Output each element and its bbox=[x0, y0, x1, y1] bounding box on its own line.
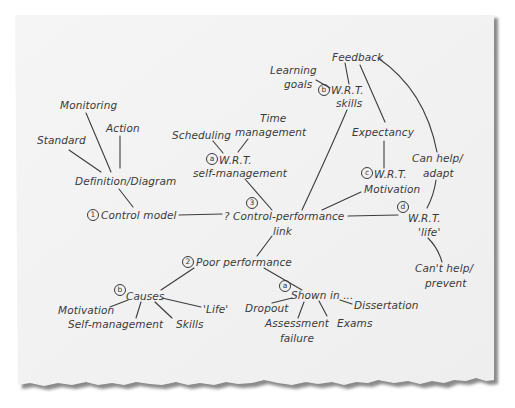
edge-feedback-expectancy bbox=[360, 65, 385, 122]
node-cant-help-line1: Can't help/ bbox=[415, 263, 473, 274]
node-wrt-self-line1: W.R.T. bbox=[219, 155, 252, 166]
node-shown-in: Shown in ... bbox=[291, 290, 353, 301]
node-central-line2: link bbox=[273, 226, 292, 237]
edge-central-wrt-life bbox=[348, 215, 398, 216]
edge-can-help-wrt-life bbox=[427, 180, 436, 208]
node-wrt-motivation-line1: W.R.T. bbox=[374, 169, 407, 180]
node-dissertation: Dissertation bbox=[354, 300, 419, 311]
node-assessment-line2: failure bbox=[280, 333, 314, 344]
node-wrt-skills-line1: W.R.T. bbox=[331, 85, 364, 96]
edge-scheduling-wrt bbox=[213, 141, 223, 153]
edge-poor-performance-causes bbox=[161, 268, 194, 290]
edge-shown-in-assessment bbox=[298, 302, 304, 318]
edge-skills-central bbox=[302, 110, 347, 210]
marker-3: 3 bbox=[246, 197, 258, 209]
node-dropout: Dropout bbox=[245, 303, 288, 314]
edge-standard-definition bbox=[69, 150, 101, 172]
edge-motivation-central bbox=[322, 192, 361, 210]
node-exams: Exams bbox=[337, 318, 372, 329]
node-assessment-line1: Assessment bbox=[265, 318, 329, 329]
node-cause-motivation: Motivation bbox=[58, 305, 114, 316]
edge-definition-control-model bbox=[119, 189, 133, 207]
node-goals: goals bbox=[284, 79, 312, 90]
edge-central-poor-performance bbox=[257, 236, 272, 256]
edge-shown-in-exams bbox=[319, 301, 327, 316]
node-wrt-self-line2: self-management bbox=[193, 168, 287, 179]
node-learning: Learning bbox=[270, 65, 317, 76]
diagram-canvas: Monitoring Action Standard Definition/Di… bbox=[0, 0, 515, 408]
node-cause-skills: Skills bbox=[176, 319, 204, 330]
node-expectancy: Expectancy bbox=[352, 127, 414, 138]
marker-a-self: a bbox=[206, 153, 218, 165]
edge-causes-life bbox=[162, 298, 201, 307]
marker-b-skills: b bbox=[318, 84, 330, 96]
marker-2: 2 bbox=[182, 256, 194, 268]
node-monitoring: Monitoring bbox=[60, 100, 117, 111]
node-can-help-line2: adapt bbox=[423, 168, 454, 179]
node-cause-self-management: Self-management bbox=[68, 319, 163, 330]
edge-life-cant-help bbox=[428, 238, 442, 262]
node-causes: Causes bbox=[126, 291, 164, 302]
marker-c: c bbox=[361, 167, 373, 179]
node-central-line1: ? Control-performance bbox=[224, 211, 344, 222]
marker-a-shown: a bbox=[279, 280, 291, 292]
node-action: Action bbox=[106, 123, 140, 134]
node-wrt-motivation-line2: Motivation bbox=[364, 184, 420, 195]
node-poor-performance: Poor performance bbox=[196, 257, 292, 268]
edge-feedback-wrt-skills bbox=[345, 63, 349, 84]
marker-1: 1 bbox=[87, 209, 99, 221]
node-standard: Standard bbox=[37, 135, 86, 146]
node-definition-diagram: Definition/Diagram bbox=[75, 176, 176, 187]
marker-b-causes: b bbox=[114, 284, 126, 296]
node-management: management bbox=[235, 127, 306, 138]
node-wrt-life-line1: W.R.T. bbox=[408, 213, 441, 224]
node-can-help-line1: Can help/ bbox=[412, 153, 463, 164]
node-wrt-life-line2: 'life' bbox=[418, 227, 440, 238]
node-feedback: Feedback bbox=[332, 52, 383, 63]
node-cant-help-line2: prevent bbox=[425, 278, 467, 289]
edge-management-wrt bbox=[238, 139, 248, 152]
edge-causes-self-management bbox=[136, 302, 141, 318]
edge-causes-skills bbox=[155, 302, 172, 318]
node-scheduling: Scheduling bbox=[172, 130, 231, 141]
edge-control-model-central bbox=[179, 214, 222, 215]
node-time: Time bbox=[260, 113, 286, 124]
node-wrt-skills-line2: skills bbox=[336, 98, 362, 109]
node-cause-life: 'Life' bbox=[203, 304, 228, 315]
node-control-model: Control model bbox=[101, 210, 177, 221]
